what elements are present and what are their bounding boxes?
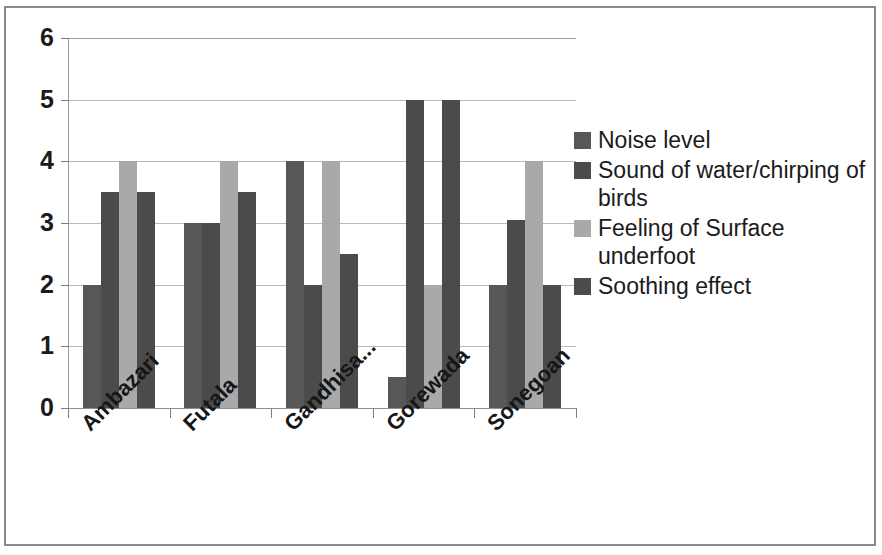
- bar: [184, 223, 202, 408]
- legend-swatch-icon: [574, 132, 591, 149]
- x-axis-tick: [576, 409, 577, 418]
- y-axis-tick: [61, 161, 69, 162]
- x-axis-tick: [373, 409, 374, 418]
- bar: [238, 192, 256, 408]
- y-axis-tick: [61, 38, 69, 39]
- legend-swatch-icon: [574, 278, 591, 295]
- bar: [286, 161, 304, 408]
- bar: [406, 100, 424, 408]
- y-axis-tick: [61, 223, 69, 224]
- x-axis-tick: [68, 409, 69, 418]
- x-axis-tick: [170, 409, 171, 418]
- x-axis-tick: [271, 409, 272, 418]
- legend-label: Noise level: [598, 126, 874, 154]
- chart-legend: Noise levelSound of water/chirping of bi…: [574, 126, 874, 302]
- bar: [101, 192, 119, 408]
- legend-label: Feeling of Surface underfoot: [598, 214, 874, 270]
- y-axis-tick: [61, 346, 69, 347]
- x-axis-tick: [474, 409, 475, 418]
- legend-swatch-icon: [574, 162, 591, 179]
- bar: [83, 285, 101, 408]
- chart-frame: 6543210 AmbazariFutalaGandhisa...Gorewad…: [4, 6, 876, 546]
- legend-entry[interactable]: Noise level: [574, 126, 874, 154]
- legend-entry[interactable]: Soothing effect: [574, 272, 874, 300]
- legend-label: Sound of water/chirping of birds: [598, 156, 874, 212]
- y-axis-tick: [61, 100, 69, 101]
- bar: [489, 285, 507, 408]
- bar-group: [184, 38, 256, 408]
- legend-entry[interactable]: Sound of water/chirping of birds: [574, 156, 874, 212]
- legend-entry[interactable]: Feeling of Surface underfoot: [574, 214, 874, 270]
- legend-swatch-icon: [574, 220, 591, 237]
- legend-label: Soothing effect: [598, 272, 874, 300]
- y-axis-tick: [61, 285, 69, 286]
